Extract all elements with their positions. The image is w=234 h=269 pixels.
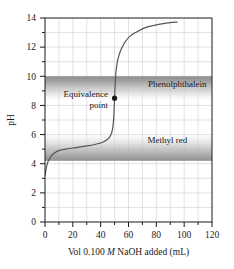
y-tick-label-12: 12 <box>27 42 37 52</box>
phenolphthalein-label: Phenolphthalein <box>148 79 207 89</box>
y-axis-title: pH <box>6 114 16 126</box>
equivalence-point-marker <box>112 96 117 101</box>
methyl-red-label: Methyl red <box>148 135 188 145</box>
x-axis-title-post: NaOH added (mL) <box>115 247 189 258</box>
y-tick-label-6: 6 <box>31 130 36 140</box>
x-tick-label-120: 120 <box>205 230 220 240</box>
y-tick-label-14: 14 <box>27 13 37 23</box>
y-tick-label-8: 8 <box>31 101 36 111</box>
x-tick-label-60: 60 <box>124 230 134 240</box>
y-tick-label-2: 2 <box>31 188 36 198</box>
x-tick-label-0: 0 <box>43 230 48 240</box>
equivalence-point-label-line1: Equivalence <box>64 89 108 99</box>
x-tick-label-40: 40 <box>96 230 106 240</box>
y-tick-label-4: 4 <box>31 159 36 169</box>
equivalence-point-label-line2: point <box>89 100 108 110</box>
x-tick-label-80: 80 <box>152 230 162 240</box>
x-axis-title: Vol 0.100 M NaOH added (mL) <box>68 247 189 258</box>
y-tick-label-10: 10 <box>27 72 37 82</box>
y-tick-label-0: 0 <box>31 217 36 227</box>
titration-curve-figure: Phenolphthalein Methyl red Equivalence p… <box>0 0 234 269</box>
x-axis-title-pre: Vol 0.100 <box>68 247 107 257</box>
x-tick-label-20: 20 <box>68 230 78 240</box>
x-tick-label-100: 100 <box>177 230 192 240</box>
titration-chart: Phenolphthalein Methyl red Equivalence p… <box>0 0 234 269</box>
